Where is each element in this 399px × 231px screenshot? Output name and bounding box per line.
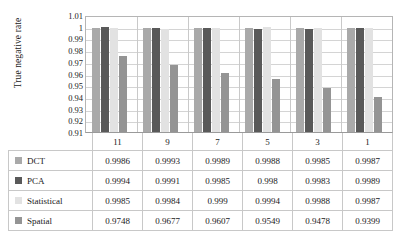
- series-name-label: Spatial: [27, 216, 52, 226]
- series-name-label: DCT: [27, 156, 45, 166]
- bar-dct: [347, 28, 356, 132]
- y-axis-tick: 0.93: [68, 106, 83, 115]
- bar-statistical: [110, 28, 119, 132]
- table-value-cell: 0.9986: [93, 151, 143, 171]
- table-value-cell: 0.9985: [193, 171, 243, 191]
- table-row: DCT0.99860.99930.99890.99880.99850.9987: [9, 151, 393, 171]
- category-header-cell: 7: [193, 133, 243, 151]
- legend-cell-pca: PCA: [9, 171, 93, 191]
- bar-spatial: [170, 65, 179, 133]
- table-value-cell: 0.9994: [243, 191, 293, 211]
- table-value-cell: 0.999: [193, 191, 243, 211]
- table-value-cell: 0.9994: [93, 171, 143, 191]
- table-value-cell: 0.9988: [293, 191, 343, 211]
- y-axis-tick: 1: [79, 24, 83, 33]
- legend-cell-dct: DCT: [9, 151, 93, 171]
- y-axis-tick: 0.92: [68, 117, 83, 126]
- y-axis-tick: 0.94: [68, 94, 83, 103]
- table-value-cell: 0.9987: [343, 151, 393, 171]
- bar-spatial: [272, 79, 281, 132]
- y-axis-tick: 0.97: [68, 59, 83, 68]
- legend-cell-spatial: Spatial: [9, 211, 93, 231]
- legend-swatch-icon: [15, 177, 22, 184]
- legend-cell-statistical: Statistical: [9, 191, 93, 211]
- table-value-cell: 0.9983: [293, 171, 343, 191]
- table-value-cell: 0.9989: [343, 171, 393, 191]
- chart-figure: True negative rate 1.0110.990.980.970.96…: [0, 0, 399, 231]
- table-value-cell: 0.9748: [93, 211, 143, 231]
- category-header-cell: 1: [343, 133, 393, 151]
- table-value-cell: 0.9478: [293, 211, 343, 231]
- bar-pca: [203, 28, 212, 132]
- category-separator: [290, 17, 291, 132]
- category-header-cell: 9: [143, 133, 193, 151]
- bar-pca: [254, 29, 263, 132]
- table-value-cell: 0.9993: [143, 151, 193, 171]
- bar-group: [188, 17, 239, 132]
- bar-dct: [194, 28, 203, 132]
- bar-statistical: [263, 27, 272, 132]
- table-value-cell: 0.9989: [193, 151, 243, 171]
- table-row: Spatial0.97480.96770.96070.95490.94780.9…: [9, 211, 393, 231]
- plot-area: [85, 16, 393, 133]
- category-separator: [137, 17, 138, 132]
- data-table: 1197531DCT0.99860.99930.99890.99880.9985…: [8, 133, 393, 231]
- y-axis-tick: 0.99: [68, 35, 83, 44]
- bar-dct: [92, 28, 101, 132]
- series-name-label: Statistical: [27, 196, 63, 206]
- bar-spatial: [323, 88, 332, 132]
- series-name-label: PCA: [27, 176, 45, 186]
- bar-group: [137, 17, 188, 132]
- table-value-cell: 0.9987: [343, 191, 393, 211]
- bar-statistical: [212, 28, 221, 132]
- bar-chart: True negative rate 1.0110.990.980.970.96…: [0, 0, 399, 134]
- bar-statistical: [161, 29, 170, 132]
- category-separator: [188, 17, 189, 132]
- y-axis-tick: 1.01: [68, 12, 83, 21]
- category-header-cell: 3: [293, 133, 343, 151]
- category-header-cell: 11: [93, 133, 143, 151]
- table-corner-cell: [9, 133, 93, 151]
- bar-group: [86, 17, 137, 132]
- bar-pca: [356, 28, 365, 132]
- y-axis-tick: 0.96: [68, 71, 83, 80]
- legend-swatch-icon: [15, 197, 22, 204]
- legend-swatch-icon: [15, 217, 22, 224]
- bars-layer: [86, 17, 392, 132]
- bar-spatial: [221, 73, 230, 132]
- bar-spatial: [119, 56, 128, 132]
- table-value-cell: 0.9984: [143, 191, 193, 211]
- table-row: Statistical0.99850.99840.9990.99940.9988…: [9, 191, 393, 211]
- table-value-cell: 0.9607: [193, 211, 243, 231]
- y-axis-tick: 0.98: [68, 47, 83, 56]
- category-separator: [341, 17, 342, 132]
- bar-pca: [152, 28, 161, 132]
- y-axis-tick: 0.95: [68, 82, 83, 91]
- bar-statistical: [365, 28, 374, 132]
- table-value-cell: 0.9399: [343, 211, 393, 231]
- bar-group: [290, 17, 341, 132]
- table-value-cell: 0.9549: [243, 211, 293, 231]
- bar-dct: [245, 28, 254, 132]
- table-row-categories: 1197531: [9, 133, 393, 151]
- legend-swatch-icon: [15, 157, 22, 164]
- category-separator: [239, 17, 240, 132]
- table-value-cell: 0.9677: [143, 211, 193, 231]
- bar-pca: [305, 29, 314, 132]
- bar-group: [341, 17, 392, 132]
- table-value-cell: 0.9988: [243, 151, 293, 171]
- category-header-cell: 5: [243, 133, 293, 151]
- bar-statistical: [314, 28, 323, 132]
- bar-dct: [296, 28, 305, 132]
- bar-pca: [101, 27, 110, 132]
- table-value-cell: 0.9985: [93, 191, 143, 211]
- table-value-cell: 0.998: [243, 171, 293, 191]
- bar-spatial: [374, 97, 383, 132]
- table-value-cell: 0.9991: [143, 171, 193, 191]
- table-row: PCA0.99940.99910.99850.9980.99830.9989: [9, 171, 393, 191]
- y-axis-tick-labels: 1.0110.990.980.970.960.950.940.930.920.9…: [58, 12, 83, 134]
- bar-group: [239, 17, 290, 132]
- y-axis-title: True negative rate: [13, 0, 23, 109]
- table-value-cell: 0.9985: [293, 151, 343, 171]
- bar-dct: [143, 28, 152, 132]
